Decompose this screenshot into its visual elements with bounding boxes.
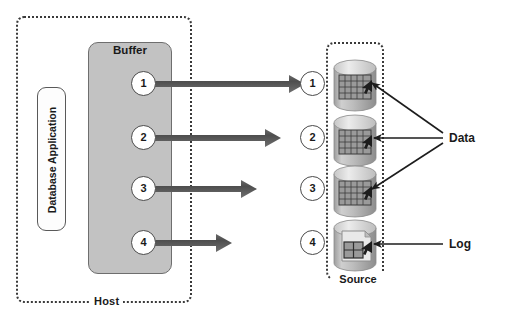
step-arrow-3	[143, 180, 257, 198]
step-arrow-1	[143, 75, 305, 93]
source-cylinder-1	[334, 60, 376, 111]
source-cylinder-4	[334, 220, 376, 271]
diagram-graphics-layer	[0, 0, 523, 321]
step-arrow-4	[143, 234, 232, 252]
buffer-step-circle-2[interactable]: 2	[131, 125, 156, 150]
buffer-step-circle-3[interactable]: 3	[131, 176, 156, 201]
source-step-circle-2[interactable]: 2	[300, 125, 325, 150]
step-arrow-2	[143, 129, 281, 147]
source-cylinder-2	[334, 115, 376, 166]
source-step-circle-4[interactable]: 4	[300, 230, 325, 255]
source-step-circle-1[interactable]: 1	[300, 71, 325, 96]
data-connector-lines	[372, 83, 443, 189]
buffer-step-circle-4[interactable]: 4	[131, 230, 156, 255]
data-label: Data	[449, 131, 475, 145]
source-step-circle-3[interactable]: 3	[300, 176, 325, 201]
source-cylinder-3	[334, 166, 376, 217]
buffer-step-circle-1[interactable]: 1	[131, 71, 156, 96]
log-label: Log	[449, 237, 471, 251]
diagram-canvas: Host Database Application Buffer Source	[0, 0, 523, 321]
